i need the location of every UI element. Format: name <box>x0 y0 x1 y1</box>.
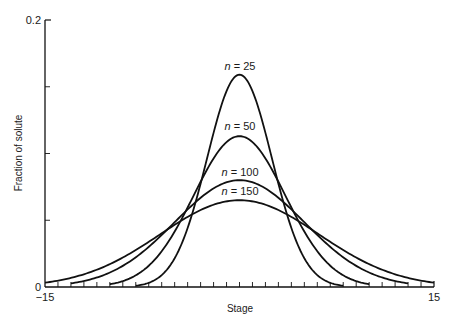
x-tick-label-max: 15 <box>428 291 440 303</box>
x-axis-title: Stage <box>227 303 254 314</box>
y-axis-title: Fraction of solute <box>13 114 24 191</box>
curves <box>45 75 434 286</box>
curve-label-n25: n = 25 <box>225 60 256 72</box>
curve-n150 <box>45 200 434 282</box>
curve-label-n150: n = 150 <box>221 185 258 197</box>
y-minor-ticks <box>45 87 50 221</box>
curve-n50 <box>110 136 369 284</box>
chart: 0.2 0 −15 15 Stage Fraction of solute n … <box>0 0 456 330</box>
y-tick-label-max: 0.2 <box>26 14 41 26</box>
curve-label-n100: n = 100 <box>221 166 258 178</box>
curve-label-n50: n = 50 <box>225 120 256 132</box>
x-tick-label-min: −15 <box>36 291 55 303</box>
